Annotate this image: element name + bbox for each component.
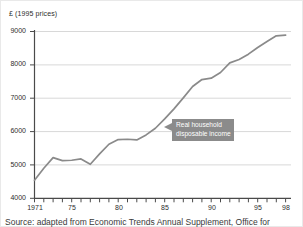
x-tick-marks [35, 198, 286, 202]
x-tick-label-90: 90 [197, 204, 227, 212]
callout-line-1: Real household [176, 121, 231, 130]
y-tick-label-7000: 7000 [0, 94, 26, 102]
x-tick-label-1971: 1971 [20, 204, 50, 212]
y-tick-label-4000: 4000 [0, 194, 26, 202]
x-tick-label-85: 85 [150, 204, 180, 212]
chart-figure: £ (1995 prices) [0, 0, 303, 227]
y-tick-marks [30, 32, 34, 199]
y-tick-label-8000: 8000 [0, 60, 26, 68]
y-tick-label-9000: 9000 [0, 27, 26, 35]
callout-line-2: disposable income [176, 130, 231, 139]
source-note: Source: adapted from Economic Trends Ann… [5, 217, 270, 227]
x-tick-label-80: 80 [104, 204, 134, 212]
y-tick-label-6000: 6000 [0, 127, 26, 135]
y-tick-label-5000: 5000 [0, 161, 26, 169]
plot-area [0, 0, 303, 227]
x-tick-label-98: 98 [271, 204, 301, 212]
x-tick-label-95: 95 [243, 204, 273, 212]
series-annotation-callout: Real household disposable income [172, 119, 234, 141]
data-line-real-household-disposable-income [35, 35, 286, 180]
callout-arrow-icon [164, 123, 172, 131]
x-tick-label-75: 75 [57, 204, 87, 212]
axis-lines [34, 30, 291, 199]
